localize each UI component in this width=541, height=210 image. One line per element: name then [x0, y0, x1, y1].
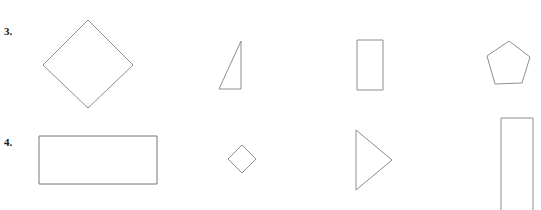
row-number-4: 4.	[4, 137, 12, 148]
worksheet-page: 3. 4.	[0, 0, 541, 210]
shape-rhombus-small-row4	[223, 140, 261, 178]
shape-pentagon-row3	[482, 36, 536, 90]
shape-rhombus-row3	[38, 16, 138, 112]
shape-triangle-right-pointing-row4	[350, 124, 400, 196]
row-number-3: 3.	[4, 26, 12, 37]
shape-rectangle-wide-row4	[34, 131, 164, 191]
shape-right-triangle-row3	[214, 36, 248, 94]
shape-rectangle-tall-row4	[496, 114, 540, 210]
shape-rectangle-vertical-row3	[352, 36, 390, 96]
